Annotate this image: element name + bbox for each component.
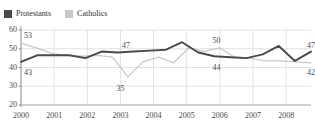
data-label-protestants-47: 47 xyxy=(122,42,130,50)
chart-legend: Protestants Catholics xyxy=(4,8,107,20)
plot-area xyxy=(0,26,315,108)
chart-figure: Protestants Catholics 2030405060 2000200… xyxy=(0,0,315,128)
data-label-catholics-35: 35 xyxy=(116,85,124,93)
x-axis-tick-label: 2000 xyxy=(6,112,36,120)
x-axis-tick-label: 2002 xyxy=(72,112,102,120)
x-axis-tick-label: 2008 xyxy=(271,112,301,120)
y-axis-tick-label: 20 xyxy=(1,101,17,109)
y-axis-tick-label: 40 xyxy=(1,64,17,72)
data-label-catholics-53: 53 xyxy=(24,32,32,40)
legend-item-catholics: Catholics xyxy=(65,10,107,18)
y-axis-tick-label: 30 xyxy=(1,82,17,90)
x-axis-tick-label: 2006 xyxy=(205,112,235,120)
x-axis-tick-label: 2003 xyxy=(105,112,135,120)
legend-item-protestants: Protestants xyxy=(4,10,51,18)
x-axis-tick-label: 2005 xyxy=(172,112,202,120)
data-label-catholics-42: 42 xyxy=(307,69,315,77)
legend-label-protestants: Protestants xyxy=(16,10,51,18)
legend-swatch-icon xyxy=(65,10,73,18)
data-label-protestants-44: 44 xyxy=(213,64,221,72)
x-axis-tick-label: 2007 xyxy=(238,112,268,120)
x-axis-tick-label: 2004 xyxy=(139,112,169,120)
x-axis-tick-label: 2001 xyxy=(39,112,69,120)
plot-svg xyxy=(0,26,315,108)
data-label-protestants-47: 47 xyxy=(307,42,315,50)
series-line-protestants xyxy=(21,42,311,62)
data-label-catholics-50: 50 xyxy=(213,37,221,45)
legend-swatch-icon xyxy=(4,10,12,18)
y-axis-tick-label: 50 xyxy=(1,45,17,53)
series-line-catholics xyxy=(21,43,311,77)
legend-label-catholics: Catholics xyxy=(77,10,107,18)
y-axis-tick-label: 60 xyxy=(1,26,17,34)
data-label-protestants-43: 43 xyxy=(24,69,32,77)
